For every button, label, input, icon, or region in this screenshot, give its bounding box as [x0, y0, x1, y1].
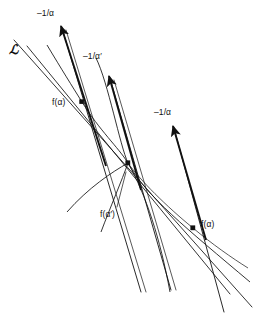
arrow-label-3: –1/α	[154, 108, 171, 117]
spectrum-curve-2	[96, 58, 250, 282]
steep-line-group	[62, 28, 224, 312]
figure-drawing-canvas	[0, 0, 278, 329]
slope-arrow-2	[109, 76, 141, 190]
tangency-point-1	[79, 99, 84, 104]
spectrum-curve-group	[47, 45, 250, 292]
point-label-3: f(α)	[201, 220, 214, 229]
tangency-point-group	[79, 99, 195, 230]
script-l-label: ℒ	[9, 43, 18, 56]
tangency-point-2	[125, 160, 130, 165]
leader-line-group	[117, 172, 126, 207]
point-label-1: f(α)	[52, 98, 65, 107]
tangency-point-3	[190, 225, 195, 230]
point-label-2: f(α′)	[100, 210, 115, 219]
leader-line-1	[117, 172, 126, 207]
tangent-line-a	[27, 46, 230, 294]
tangent-line-L	[14, 40, 252, 307]
tangent-line-group	[14, 40, 252, 307]
figure-container: ℒ –1/α –1/α′ –1/α f(α) f(α′) f(α)	[0, 0, 278, 329]
arrow-label-1: –1/α	[37, 9, 54, 18]
arrow-label-2: –1/α′	[83, 52, 102, 61]
